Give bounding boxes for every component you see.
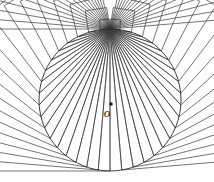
chord-line (45, 29, 110, 128)
chord-line (66, 29, 110, 156)
rotating-square (110, 0, 214, 156)
rotating-square (110, 0, 214, 70)
chord-line (41, 29, 110, 117)
rotating-square (110, 0, 214, 117)
chord-line (76, 29, 110, 162)
rotating-square (0, 6, 110, 167)
chord-line (110, 29, 163, 148)
chord-line (110, 29, 122, 170)
construction-svg: o (0, 0, 214, 182)
chord-line (110, 29, 175, 70)
chord-line (110, 29, 179, 81)
center-marker-group: o (104, 102, 113, 120)
chord-line (41, 29, 110, 81)
rotating-square (0, 0, 110, 81)
chord-line (110, 29, 175, 128)
geometric-figure-canvas: o (0, 0, 214, 182)
chord-line (110, 29, 179, 117)
chord-line (110, 29, 154, 156)
center-label-o: o (104, 105, 111, 120)
chord-line (110, 29, 144, 162)
chord-line (45, 29, 110, 70)
rotating-square (0, 0, 110, 138)
chords-group (39, 29, 181, 171)
squares-group (0, 0, 214, 171)
chord-line (98, 29, 110, 170)
chord-line (57, 29, 110, 148)
rotating-square (110, 6, 214, 167)
rotating-square (0, 0, 110, 156)
